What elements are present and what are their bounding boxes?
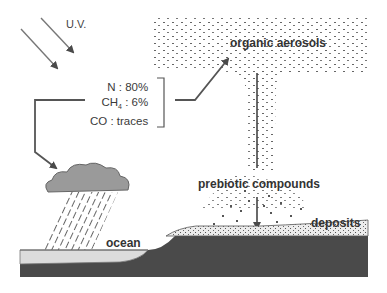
diagram-graphics (0, 0, 387, 293)
gas-to-cloud-arrow (35, 100, 85, 168)
diagram-canvas: U.V. organic aerosols prebiotic compound… (0, 0, 387, 293)
gas-bracket (157, 78, 164, 127)
gas-co: CO : traces (90, 114, 148, 129)
organic-aerosols-label: organic aerosols (230, 37, 326, 49)
deposits-label: deposits (311, 217, 360, 229)
ocean-label: ocean (106, 237, 141, 249)
uv-label: U.V. (66, 19, 86, 30)
prebiotic-compounds-label: prebiotic compounds (198, 178, 320, 190)
gas-ch4: CH4 : 6% (90, 95, 148, 114)
gas-n: N : 80% (90, 80, 148, 95)
gas-list: N : 80% CH4 : 6% CO : traces (90, 80, 148, 129)
